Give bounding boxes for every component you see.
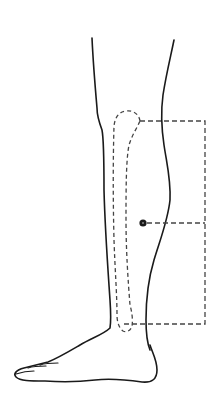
- leg-diagram: Lower leg lateral view with tibia outlin…: [0, 0, 224, 398]
- leg-anterior-outline: [146, 40, 174, 350]
- diagram-canvas: [0, 0, 224, 398]
- point-marker-center: [142, 222, 144, 224]
- tibia-outline: [113, 111, 140, 332]
- leg-posterior-outline: [15, 38, 157, 382]
